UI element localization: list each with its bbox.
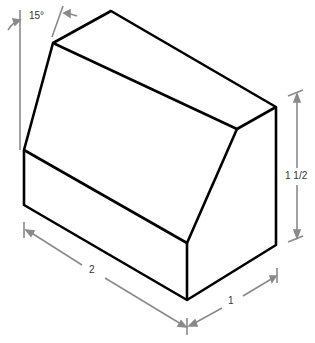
angle-label: 15° (29, 10, 44, 22)
block-drawing (0, 0, 315, 343)
depth-label: 1 (228, 295, 234, 307)
height-label: 1 1/2 (285, 170, 307, 182)
block-outline (24, 11, 276, 300)
length-label: 2 (89, 264, 95, 276)
